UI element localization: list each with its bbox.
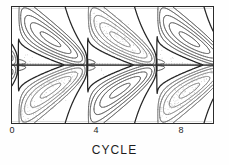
x-tick-label-8: 8 bbox=[173, 126, 189, 135]
x-tick-label-4: 4 bbox=[88, 126, 104, 135]
x-axis-title: CYCLE bbox=[0, 143, 229, 157]
plot-frame bbox=[11, 6, 214, 124]
x-tick-label-0: 0 bbox=[4, 126, 20, 135]
figure-container: 0 4 8 CYCLE bbox=[0, 0, 229, 165]
contour-plot-canvas bbox=[12, 7, 213, 123]
